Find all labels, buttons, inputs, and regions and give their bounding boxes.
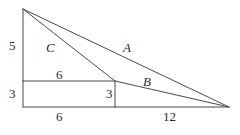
label-side-b: B: [143, 75, 151, 88]
geometry-figure: 5 C A 6 B 3 3 6 12: [0, 0, 240, 135]
label-side-c: C: [46, 41, 55, 54]
label-left-upper-5: 5: [9, 39, 16, 52]
figure-canvas: [0, 0, 240, 135]
segment-c-line: [23, 9, 115, 81]
label-inner-top-6: 6: [56, 68, 63, 81]
label-left-lower-3: 3: [9, 87, 16, 100]
label-side-a: A: [123, 41, 131, 54]
segment-b-line: [115, 81, 229, 107]
label-inner-right-3: 3: [106, 87, 113, 100]
label-base-right-12: 12: [163, 110, 176, 123]
hypotenuse-a-line: [23, 9, 229, 107]
label-base-left-6: 6: [56, 110, 63, 123]
